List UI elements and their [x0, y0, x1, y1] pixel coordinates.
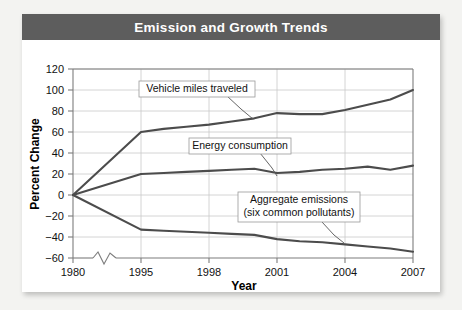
figure-root: Emission and Growth Trends — [0, 0, 462, 310]
y-tick-label: 20 — [52, 168, 64, 180]
x-tick-label: 1980 — [61, 266, 85, 278]
y-tick-label: 80 — [52, 105, 64, 117]
y-tick-label: 40 — [52, 147, 64, 159]
x-tick-labels: 1980 1995 1998 2001 2004 2007 — [61, 266, 425, 278]
annotation-label-line1: Aggregate emissions — [250, 193, 348, 205]
y-tick-labels: 120 100 80 60 40 20 0 −20 −40 −60 — [45, 63, 64, 264]
y-tick-label: −20 — [45, 210, 64, 222]
figure-title: Emission and Growth Trends — [134, 20, 327, 35]
y-tick-label: −60 — [45, 252, 64, 264]
annotation-vehicle-miles-traveled: Vehicle miles traveled — [139, 81, 255, 119]
y-tick-marks — [68, 69, 73, 258]
figure-card: Emission and Growth Trends — [22, 14, 440, 292]
annotation-label: Energy consumption — [192, 139, 288, 151]
y-tick-label: −40 — [45, 231, 64, 243]
data-series-group — [73, 90, 413, 252]
x-tick-label: 2007 — [401, 266, 425, 278]
x-tick-label: 1998 — [197, 266, 221, 278]
y-tick-label: 100 — [46, 84, 64, 96]
y-tick-label: 120 — [46, 63, 64, 75]
x-tick-label: 2004 — [333, 266, 357, 278]
y-tick-label: 0 — [58, 189, 64, 201]
x-tick-label: 1995 — [129, 266, 153, 278]
x-tick-marks — [73, 258, 413, 263]
x-axis-title: Year — [231, 279, 257, 292]
x-tick-label: 2001 — [265, 266, 289, 278]
series-line-energy-consumption — [73, 166, 413, 195]
y-axis-title: Percent Change — [28, 118, 42, 210]
figure-title-bar: Emission and Growth Trends — [22, 14, 440, 40]
annotation-label: Vehicle miles traveled — [146, 82, 248, 94]
plot-area: 120 100 80 60 40 20 0 −20 −40 −60 1980 1… — [22, 40, 440, 292]
annotation-label-line2: (six common pollutants) — [244, 206, 355, 218]
y-tick-label: 60 — [52, 126, 64, 138]
